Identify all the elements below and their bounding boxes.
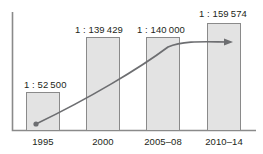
value-label-2000: 1 : 139 429 (75, 24, 123, 35)
category-label-2005-08: 2005–08 (135, 136, 191, 147)
value-label-2005-08: 1 : 140 000 (137, 24, 185, 35)
value-label-2010-14: 1 : 159 574 (199, 8, 247, 19)
bar-1995 (27, 93, 60, 131)
bar-2000 (87, 38, 120, 131)
chart-canvas (0, 0, 263, 154)
value-label-1995: 1 : 52 500 (24, 79, 67, 90)
ratio-bar-chart: 1 : 52 500 1 : 139 429 1 : 140 000 1 : 1… (0, 0, 263, 154)
trend-start-dot-icon (33, 121, 38, 126)
category-label-1995: 1995 (18, 136, 68, 147)
category-label-2010-14: 2010–14 (196, 136, 252, 147)
category-label-2000: 2000 (78, 136, 128, 147)
bar-group (27, 24, 241, 131)
